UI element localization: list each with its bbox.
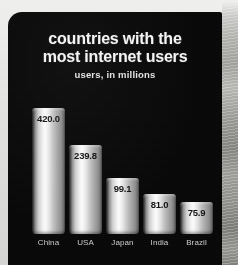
bar-brazil: 75.9 (180, 202, 213, 234)
chart-panel: countries with the most internet users u… (8, 12, 222, 265)
bar-japan: 99.1 (106, 178, 139, 234)
bar-value-japan: 99.1 (106, 183, 139, 194)
bar-value-usa: 239.8 (69, 150, 102, 161)
chart-image: countries with the most internet users u… (0, 0, 238, 265)
bar-china: 420.0 (32, 108, 65, 234)
chart-title-line-2: most internet users (8, 48, 222, 66)
bar-usa: 239.8 (69, 145, 102, 234)
bar-value-india: 81.0 (143, 199, 176, 210)
category-label-japan: Japan (104, 238, 141, 247)
chart-title-line-1: countries with the (8, 30, 222, 48)
category-label-brazil: Brazil (178, 238, 215, 247)
category-label-usa: USA (67, 238, 104, 247)
bar-value-china: 420.0 (32, 113, 65, 124)
plot-area: 420.0 239.8 99.1 81.0 75.9 (32, 90, 214, 234)
bar-value-brazil: 75.9 (180, 207, 213, 218)
chart-title: countries with the most internet users (8, 30, 222, 66)
x-axis-labels: China USA Japan India Brazil (32, 238, 214, 252)
chart-subtitle: users, in millions (8, 69, 222, 80)
paper-edge-texture (222, 0, 238, 265)
category-label-india: India (141, 238, 178, 247)
bar-india: 81.0 (143, 194, 176, 234)
category-label-china: China (30, 238, 67, 247)
